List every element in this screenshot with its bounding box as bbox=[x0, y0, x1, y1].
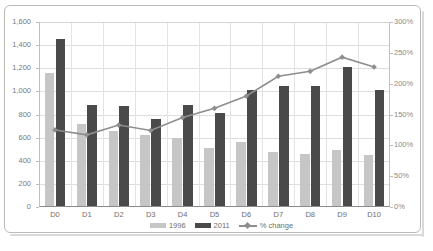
frame-shadow-bottom bbox=[10, 234, 424, 236]
x-tick-label: D7 bbox=[261, 210, 295, 219]
frame-shadow-right bbox=[422, 11, 424, 237]
y-tick-label-right: 200% bbox=[394, 80, 433, 88]
y-tick-label-left: 400 bbox=[0, 157, 31, 165]
y-tick-mark-left bbox=[36, 207, 39, 208]
line-marker bbox=[371, 64, 377, 70]
y-tick-label-left: 0 bbox=[0, 203, 31, 211]
x-tick-label: D8 bbox=[293, 210, 327, 219]
line-marker bbox=[212, 106, 218, 112]
legend-item-2011: 2011 bbox=[195, 221, 230, 230]
y-tick-label-left: 600 bbox=[0, 134, 31, 142]
y-tick-mark-right bbox=[390, 176, 393, 177]
y-tick-label-left: 1,400 bbox=[0, 41, 31, 49]
y-tick-mark-left bbox=[36, 184, 39, 185]
x-tick-label: D5 bbox=[198, 210, 232, 219]
y-tick-label-right: 0% bbox=[394, 203, 433, 211]
y-tick-mark-left bbox=[36, 45, 39, 46]
legend-swatch-2011 bbox=[195, 223, 211, 228]
line-marker bbox=[148, 128, 154, 134]
y-tick-mark-left bbox=[36, 68, 39, 69]
y-tick-mark-left bbox=[36, 91, 39, 92]
x-tick-label: D4 bbox=[166, 210, 200, 219]
plot-area bbox=[39, 22, 390, 207]
chart-legend: 1996 2011 % change bbox=[5, 221, 433, 230]
chart-frame: 02004006008001,0001,2001,4001,600 0%50%1… bbox=[4, 5, 421, 233]
line-marker bbox=[180, 115, 186, 121]
y-tick-mark-right bbox=[390, 145, 393, 146]
x-tick-label: D2 bbox=[102, 210, 136, 219]
line-path bbox=[55, 57, 374, 135]
y-tick-mark-left bbox=[36, 161, 39, 162]
x-tick-label: D3 bbox=[134, 210, 168, 219]
y-tick-mark-right bbox=[390, 22, 393, 23]
y-tick-label-right: 300% bbox=[394, 18, 433, 26]
x-tick-label: D1 bbox=[70, 210, 104, 219]
legend-item-1996: 1996 bbox=[150, 221, 186, 230]
y-tick-label-right: 50% bbox=[394, 172, 433, 180]
line-marker bbox=[84, 132, 90, 138]
legend-swatch-percent-change bbox=[239, 222, 257, 229]
y-tick-mark-right bbox=[390, 53, 393, 54]
y-tick-mark-left bbox=[36, 115, 39, 116]
legend-label-1996: 1996 bbox=[169, 221, 186, 230]
y-tick-mark-right bbox=[390, 84, 393, 85]
y-tick-mark-right bbox=[390, 115, 393, 116]
y-tick-label-left: 1,200 bbox=[0, 64, 31, 72]
x-tick-label: D10 bbox=[357, 210, 391, 219]
y-tick-label-right: 100% bbox=[394, 141, 433, 149]
y-tick-label-right: 150% bbox=[394, 111, 433, 119]
line-marker bbox=[339, 54, 345, 60]
y-tick-mark-left bbox=[36, 22, 39, 23]
line-marker bbox=[52, 127, 58, 133]
legend-swatch-1996 bbox=[150, 223, 166, 228]
legend-label-percent-change: % change bbox=[260, 221, 293, 230]
y-tick-mark-left bbox=[36, 138, 39, 139]
line-marker bbox=[307, 69, 313, 75]
percent-change-line bbox=[39, 22, 390, 207]
x-tick-label: D0 bbox=[38, 210, 72, 219]
x-tick-label: D9 bbox=[325, 210, 359, 219]
y-tick-label-left: 1,600 bbox=[0, 18, 31, 26]
y-tick-label-left: 200 bbox=[0, 180, 31, 188]
y-tick-label-left: 1,000 bbox=[0, 87, 31, 95]
x-tick-label: D6 bbox=[229, 210, 263, 219]
legend-item-percent-change: % change bbox=[239, 221, 293, 230]
y-tick-mark-right bbox=[390, 207, 393, 208]
line-marker bbox=[116, 122, 122, 128]
y-tick-label-left: 800 bbox=[0, 111, 31, 119]
legend-label-2011: 2011 bbox=[214, 221, 230, 230]
y-tick-label-right: 250% bbox=[394, 49, 433, 57]
